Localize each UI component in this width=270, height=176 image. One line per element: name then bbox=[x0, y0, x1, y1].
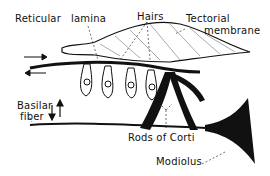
label-reticular: Reticular bbox=[15, 14, 61, 24]
label-modiolus: Modiolus bbox=[156, 157, 202, 167]
label-rods-of-corti: Rods of Corti bbox=[128, 133, 195, 143]
label-membrane: membrane bbox=[204, 26, 260, 36]
label-basilar: Basilar bbox=[17, 101, 52, 111]
label-tectorial: Tectorial bbox=[186, 14, 230, 24]
reticular-lamina bbox=[30, 62, 200, 72]
label-hairs: Hairs bbox=[137, 12, 164, 22]
label-fiber: fiber bbox=[20, 112, 44, 122]
organ-of-corti-diagram: Reticular lamina Hairs Tectorial membran… bbox=[0, 0, 270, 176]
basilar-fiber bbox=[30, 123, 210, 128]
label-lamina: lamina bbox=[71, 14, 106, 24]
modiolus bbox=[205, 98, 255, 164]
